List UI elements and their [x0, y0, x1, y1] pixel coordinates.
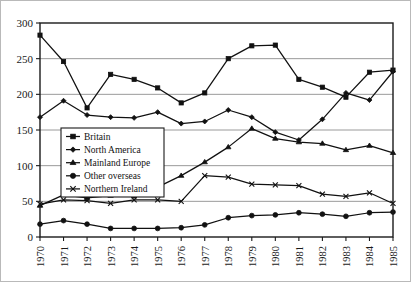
y-tick-label: 0 [28, 231, 34, 243]
data-point-filled-square [226, 57, 230, 61]
x-axis-tick-labels: 1970197119721973197419751976197719781979… [35, 245, 399, 267]
x-tick-label: 1984 [364, 245, 375, 267]
data-point-filled-square [367, 70, 371, 74]
data-point-filled-circle [249, 213, 254, 218]
data-point-filled-square [179, 101, 183, 105]
y-tick-label: 150 [17, 124, 34, 136]
data-point-filled-triangle [249, 126, 254, 130]
x-tick-label: 1974 [129, 245, 140, 267]
y-tick-label: 200 [17, 88, 34, 100]
data-point-filled-circle [296, 210, 301, 215]
y-tick-label: 250 [17, 53, 34, 65]
x-tick-label: 1981 [294, 246, 305, 267]
data-point-filled-circle [226, 215, 231, 220]
x-tick-label: 1982 [317, 246, 328, 267]
y-axis-tick-labels: 050100150200250300 [17, 17, 34, 243]
y-tick-label: 100 [17, 160, 34, 172]
data-point-filled-square [320, 85, 324, 89]
x-tick-label: 1979 [247, 246, 258, 267]
data-point-filled-circle [367, 210, 372, 215]
x-tick-label: 1985 [388, 246, 399, 267]
x-tick-label: 1983 [341, 246, 352, 267]
data-point-filled-square [85, 106, 89, 110]
legend-label: Northern Ireland [84, 184, 148, 194]
x-tick-label: 1973 [106, 246, 117, 267]
data-point-filled-circle [155, 226, 160, 231]
data-point-filled-diamond [108, 115, 113, 120]
data-point-filled-diamond [179, 121, 184, 126]
data-point-filled-square [250, 44, 254, 48]
x-tick-label: 1977 [200, 246, 211, 267]
data-point-filled-circle [61, 218, 66, 223]
data-point-filled-square [273, 43, 277, 47]
data-point-filled-triangle [367, 143, 372, 147]
data-point-filled-circle [132, 226, 137, 231]
series-line [40, 35, 393, 108]
data-point-filled-square [297, 77, 301, 81]
data-point-filled-circle [85, 222, 90, 227]
data-point-filled-diamond [226, 108, 231, 113]
data-point-filled-square [61, 59, 65, 63]
x-tick-label: 1980 [270, 246, 281, 267]
legend-label: Mainland Europe [84, 158, 150, 168]
data-point-filled-diamond [155, 110, 160, 115]
data-point-filled-square [156, 86, 160, 90]
x-tick-label: 1978 [223, 246, 234, 267]
line-chart: 050100150200250300 197019711972197319741… [1, 1, 411, 282]
x-tick-label: 1975 [153, 246, 164, 267]
series-line [40, 212, 393, 228]
data-point-filled-circle [320, 212, 325, 217]
data-point-filled-diamond [132, 115, 137, 120]
chart-figure: 050100150200250300 197019711972197319741… [0, 0, 411, 282]
data-point-filled-square [109, 72, 113, 76]
data-point-filled-diamond [202, 119, 207, 124]
data-point-filled-circle [273, 212, 278, 217]
data-point-filled-circle [344, 214, 349, 219]
y-tick-label: 50 [22, 195, 34, 207]
legend-label: North America [84, 145, 142, 155]
x-tick-label: 1976 [176, 246, 187, 267]
x-tick-label: 1970 [35, 246, 46, 267]
legend-label: Britain [84, 132, 111, 142]
chart-legend: BritainNorth AmericaMainland EuropeOther… [61, 128, 164, 197]
y-tick-label: 300 [17, 17, 34, 29]
data-point-filled-square [132, 77, 136, 81]
x-tick-label: 1972 [82, 246, 93, 267]
legend-label: Other overseas [84, 171, 141, 181]
data-point-filled-square [71, 134, 76, 139]
data-point-filled-circle [179, 225, 184, 230]
data-point-filled-square [203, 91, 207, 95]
data-point-filled-circle [108, 226, 113, 231]
data-point-filled-circle [202, 222, 207, 227]
x-tick-label: 1971 [59, 246, 70, 267]
data-point-filled-circle [70, 173, 75, 178]
